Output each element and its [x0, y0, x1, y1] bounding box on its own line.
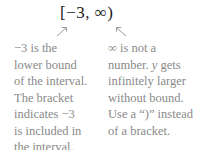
variable-y: y — [152, 58, 158, 72]
infinity-annotation: ∞ is not a number. y gets infinitely lar… — [108, 40, 200, 139]
annotation-line: of the interval. — [14, 73, 104, 90]
annotation-line: indicates −3 — [14, 106, 104, 123]
annotation-line: of a bracket. — [108, 123, 200, 140]
annotation-line: The bracket — [14, 90, 104, 107]
lower-bound-annotation: −3 is the lower bound of the interval. T… — [14, 40, 104, 150]
annotation-line: without bound. — [108, 90, 200, 107]
annotation-line: −3 is the — [14, 40, 104, 57]
text: number. — [108, 58, 149, 72]
annotation-line: the interval. — [14, 139, 104, 150]
annotation-line: ∞ is not a — [108, 40, 200, 57]
arrow-to-lower-bound-icon — [55, 25, 69, 37]
annotation-line: lower bound — [14, 57, 104, 74]
annotation-line: Use a “)” instead — [108, 106, 200, 123]
annotation-line: infinitely larger — [108, 73, 200, 90]
text: gets — [160, 58, 180, 72]
arrow-to-infinity-icon — [114, 25, 128, 37]
annotation-line: number. y gets — [108, 57, 200, 74]
annotation-line: is included in — [14, 123, 104, 140]
interval-notation: [−3, ∞) — [60, 3, 150, 23]
